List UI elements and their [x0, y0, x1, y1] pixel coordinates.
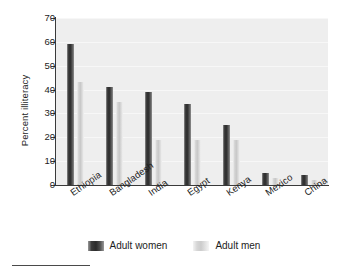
bar-adult-men	[116, 102, 123, 186]
bar-group	[262, 18, 280, 185]
legend-swatch-men	[193, 241, 209, 251]
y-tick-label: 10	[31, 155, 55, 166]
bottom-rule	[12, 265, 90, 266]
legend-label: Adult men	[215, 240, 260, 251]
bar-adult-women	[67, 44, 74, 185]
y-tick-label: 50	[31, 60, 55, 71]
y-tick-label: 20	[31, 131, 55, 142]
bar-adult-women	[301, 175, 308, 185]
bar-group	[184, 18, 202, 185]
y-axis-title: Percent illiteracy	[19, 46, 30, 176]
legend-item: Adult men	[193, 240, 260, 251]
bar-adult-women	[106, 87, 113, 185]
bar-group	[301, 18, 319, 185]
bar-adult-women	[262, 173, 269, 185]
bar-chart: Percent illiteracy 010203040506070 Ethio…	[0, 0, 348, 272]
y-tick-label: 0	[31, 179, 55, 190]
y-tick-label: 40	[31, 84, 55, 95]
bar-group	[67, 18, 85, 185]
bar-adult-women	[184, 104, 191, 185]
y-tick-label: 30	[31, 107, 55, 118]
legend-label: Adult women	[110, 240, 168, 251]
chart-legend: Adult womenAdult men	[0, 240, 348, 251]
bar-adult-men	[77, 82, 84, 185]
legend-swatch-women	[88, 241, 104, 251]
y-tick-label: 60	[31, 36, 55, 47]
bar-adult-women	[223, 125, 230, 185]
legend-item: Adult women	[88, 240, 168, 251]
bar-group	[223, 18, 241, 185]
y-tick-label: 70	[31, 12, 55, 23]
bar-group	[106, 18, 124, 185]
